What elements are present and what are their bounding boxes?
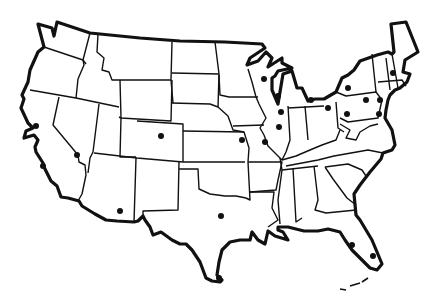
city-marker[interactable] [376, 111, 382, 117]
city-marker[interactable] [261, 76, 267, 82]
city-marker[interactable] [158, 133, 164, 139]
city-marker[interactable] [33, 123, 39, 129]
city-marker[interactable] [278, 109, 284, 115]
city-marker[interactable] [363, 97, 369, 103]
city-marker[interactable] [117, 208, 123, 214]
city-marker[interactable] [218, 213, 224, 219]
us-map [0, 0, 443, 307]
city-marker[interactable] [239, 137, 245, 143]
city-marker[interactable] [308, 97, 314, 103]
city-marker[interactable] [325, 105, 331, 111]
florida-keys [340, 278, 368, 290]
city-marker[interactable] [345, 85, 351, 91]
city-marker[interactable] [262, 139, 268, 145]
city-marker[interactable] [390, 70, 396, 76]
city-marker[interactable] [276, 124, 282, 130]
city-marker[interactable] [349, 242, 355, 248]
city-marker[interactable] [74, 152, 80, 158]
city-marker[interactable] [377, 97, 383, 103]
city-marker[interactable] [40, 163, 46, 169]
state-borders [30, 33, 406, 227]
city-marker[interactable] [216, 275, 222, 281]
city-marker[interactable] [275, 93, 281, 99]
city-marker[interactable] [344, 111, 350, 117]
city-markers [33, 70, 396, 281]
city-marker[interactable] [370, 253, 376, 259]
